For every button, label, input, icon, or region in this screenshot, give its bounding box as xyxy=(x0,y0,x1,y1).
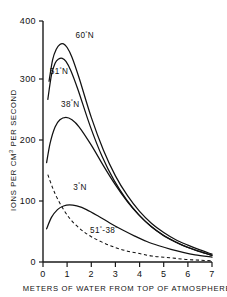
curve-51N xyxy=(48,58,212,255)
x-tick-label-6: 6 xyxy=(185,269,190,279)
curve-38N xyxy=(47,117,212,255)
annotation-diff-suffix: 38 xyxy=(105,226,115,235)
annotation-51N-suffix: N xyxy=(62,67,68,76)
x-axis-title: METERS OF WATER FROM TOP OF ATMOSPHERE xyxy=(23,284,227,293)
y-tick-label-200: 200 xyxy=(20,135,36,145)
annotation-60N-value: 60 xyxy=(76,31,86,40)
y-axis-title: IONS PER CM3 PER SECOND xyxy=(8,89,18,211)
x-tick-label-0: 0 xyxy=(40,269,45,279)
annotation-51N-value: 51 xyxy=(50,67,60,76)
curve-3N xyxy=(47,205,212,257)
x-tick-label-4: 4 xyxy=(137,269,142,279)
annotation-60N-suffix: N xyxy=(88,31,94,40)
annotation-38N-value: 38 xyxy=(61,100,71,109)
x-tick-label-1: 1 xyxy=(64,269,69,279)
y-tick-label-0: 0 xyxy=(31,257,36,267)
x-tick-label-2: 2 xyxy=(89,269,94,279)
x-tick-label-7: 7 xyxy=(209,269,214,279)
x-tick-label-5: 5 xyxy=(161,269,166,279)
annotation-51N: 51°N xyxy=(50,66,68,76)
chart-container: 400 300 200 100 0 0 1 2 3 4 5 6 7 METERS… xyxy=(0,0,227,297)
annotation-38N-suffix: N xyxy=(73,100,79,109)
curves-group xyxy=(47,44,212,261)
y-axis-title-pre: IONS PER CM xyxy=(9,153,18,211)
ion-production-rate-chart: 400 300 200 100 0 0 1 2 3 4 5 6 7 METERS… xyxy=(0,0,227,297)
annotation-60N: 60°N xyxy=(76,30,94,40)
x-tick-label-3: 3 xyxy=(113,269,118,279)
x-axis-ticks xyxy=(43,262,212,267)
annotation-diff-value: 51 xyxy=(90,226,100,235)
annotation-38N: 38°N xyxy=(61,98,79,108)
y-axis-title-post: PER SECOND xyxy=(9,89,18,149)
annotation-51-minus-38: 51°-38° xyxy=(90,225,118,235)
annotation-3N-suffix: N xyxy=(81,183,87,192)
y-tick-label-100: 100 xyxy=(20,196,36,206)
svg-text:IONS PER CM3 PER SECOND: IONS PER CM3 PER SECOND xyxy=(8,89,18,211)
annotation-3N: 3°N xyxy=(73,181,87,191)
y-tick-label-400: 400 xyxy=(20,16,36,26)
y-tick-label-300: 300 xyxy=(20,74,36,84)
